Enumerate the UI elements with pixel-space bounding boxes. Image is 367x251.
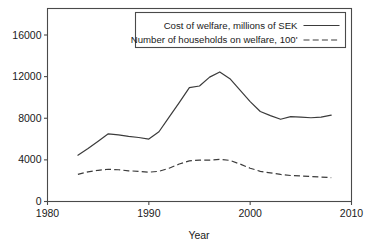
series-line-1 <box>78 72 331 155</box>
chart-legend: Cost of welfare, millions of SEKNumber o… <box>131 13 346 48</box>
y-tick-label: 16000 <box>12 29 41 41</box>
y-tick-label: 8000 <box>18 112 42 124</box>
y-tick-label: 0 <box>36 195 42 207</box>
chart-container: 0400080001200016000 1980199020002010 Cos… <box>0 0 367 251</box>
welfare-line-chart: 0400080001200016000 1980199020002010 Cos… <box>0 0 367 251</box>
x-axis-ticks: 1980199020002010 <box>36 202 364 219</box>
legend-label-1: Cost of welfare, millions of SEK <box>164 20 298 31</box>
legend-label-2: Number of households on welfare, 100' <box>131 34 298 45</box>
x-tick-label: 2010 <box>340 207 364 219</box>
x-tick-label: 1980 <box>36 207 60 219</box>
series-layer <box>78 72 331 178</box>
y-axis-ticks: 0400080001200016000 <box>12 29 47 208</box>
x-tick-label: 2000 <box>238 207 262 219</box>
y-tick-label: 4000 <box>18 153 42 165</box>
series-line-2 <box>78 159 331 177</box>
y-tick-label: 12000 <box>12 70 41 82</box>
x-axis-title: Year <box>188 229 210 241</box>
x-tick-label: 1990 <box>137 207 161 219</box>
